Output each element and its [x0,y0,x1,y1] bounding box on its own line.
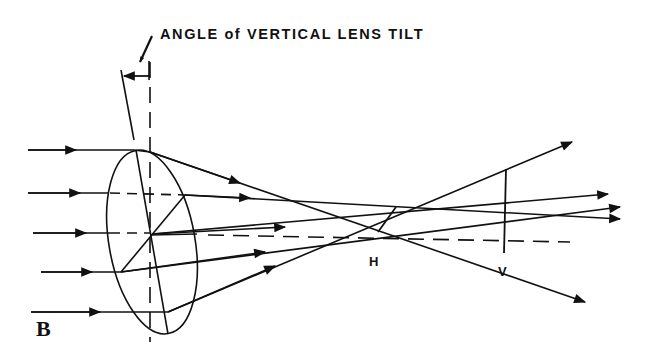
diagram-title: ANGLE of VERTICAL LENS TILT [160,26,424,42]
incoming-parallel-rays [28,150,168,312]
angle-annotation [124,36,152,80]
horizontal-focal-line [378,207,396,232]
vertical-focal-line [504,169,506,253]
label-h: H [369,254,378,269]
tilted-lens-axis [121,70,134,140]
label-v: V [498,264,507,279]
astigmatism-diagram [0,0,653,351]
optical-axis-dashed [208,235,570,242]
panel-label: B [36,316,51,342]
